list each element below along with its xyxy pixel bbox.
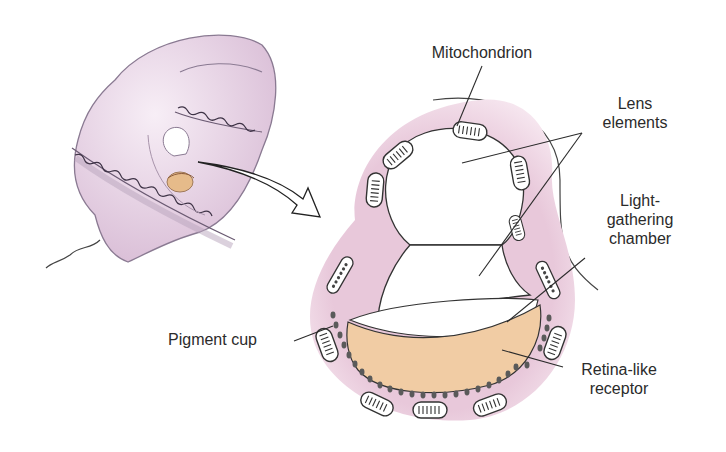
dinoflagellate-cell	[46, 35, 320, 268]
label-retina-like-receptor: Retina-like receptor	[564, 360, 674, 398]
label-chamber-line1: Light-	[595, 191, 685, 210]
label-lens-line2: elements	[590, 113, 680, 132]
label-pigment-cup: Pigment cup	[168, 330, 294, 349]
label-lens-elements: Lens elements	[590, 94, 680, 132]
label-mitochondrion: Mitochondrion	[412, 43, 552, 62]
ocellus-cross-section	[310, 98, 598, 420]
label-chamber-line3: chamber	[595, 229, 685, 248]
label-chamber-line2: gathering	[595, 210, 685, 229]
label-retina-line2: receptor	[564, 379, 674, 398]
label-lens-line1: Lens	[590, 94, 680, 113]
label-light-gathering-chamber: Light- gathering chamber	[595, 191, 685, 248]
label-retina-line1: Retina-like	[564, 360, 674, 379]
